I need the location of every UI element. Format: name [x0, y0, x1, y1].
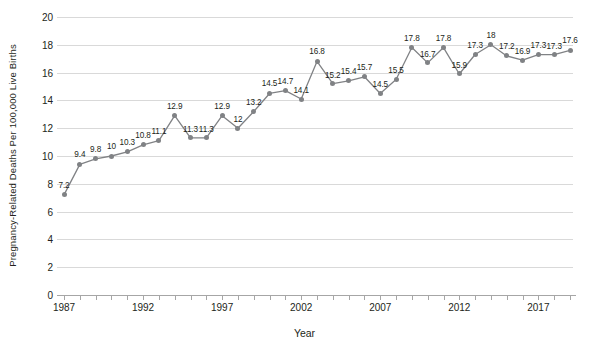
- x-axis-tick: [222, 296, 223, 300]
- data-point-label: 9.4: [74, 150, 85, 159]
- x-axis-tick: [444, 296, 445, 300]
- x-axis-tick-label: 2017: [527, 302, 549, 313]
- x-axis-tick-label: 1997: [211, 302, 233, 313]
- y-axis-tick-label: 0: [29, 290, 53, 301]
- y-axis-tick-label: 10: [29, 151, 53, 162]
- x-axis-tick: [206, 296, 207, 300]
- x-axis-tick-label: 2002: [290, 302, 312, 313]
- data-point-label: 9.8: [90, 145, 101, 154]
- x-axis-tick: [523, 296, 524, 300]
- x-axis-tick: [143, 296, 144, 300]
- x-axis-tick: [270, 296, 271, 300]
- x-axis-tick: [475, 296, 476, 300]
- data-point-marker: [536, 52, 541, 57]
- data-point-marker: [109, 154, 114, 159]
- x-axis-tick: [412, 296, 413, 300]
- data-point-marker: [315, 59, 320, 64]
- data-point-marker: [473, 52, 478, 57]
- x-axis-tick: [111, 296, 112, 300]
- x-axis-tick: [554, 296, 555, 300]
- x-axis-title: Year: [0, 327, 609, 339]
- y-axis-tick-label: 12: [29, 123, 53, 134]
- plot-area: 7.29.49.81010.310.811.112.911.311.312.91…: [57, 17, 573, 295]
- y-axis-title-text: Pregnancy-Related Deaths Per 100,000 Liv…: [7, 44, 18, 267]
- data-point-label: 15.4: [341, 67, 357, 76]
- chart-container: Pregnancy-Related Deaths Per 100,000 Liv…: [0, 0, 609, 354]
- x-axis-tick: [396, 296, 397, 300]
- data-point-marker: [220, 113, 225, 118]
- x-axis-tick: [64, 296, 65, 300]
- x-axis-tick: [491, 296, 492, 300]
- y-axis-tick-label: 18: [29, 39, 53, 50]
- data-point-label: 12.9: [214, 102, 230, 111]
- data-point-label: 14.1: [293, 86, 309, 95]
- y-axis-tick-label: 14: [29, 95, 53, 106]
- x-axis-tick: [127, 296, 128, 300]
- data-point-marker: [394, 77, 399, 82]
- y-axis-tick-label: 4: [29, 234, 53, 245]
- y-axis-tick-label: 8: [29, 178, 53, 189]
- data-point-label: 11.1: [151, 127, 166, 136]
- x-axis-tick-label: 1987: [53, 302, 75, 313]
- x-axis-tick: [364, 296, 365, 300]
- x-axis-tick-label: 2007: [369, 302, 391, 313]
- x-axis-tick: [285, 296, 286, 300]
- x-axis-tick: [254, 296, 255, 300]
- data-point-marker: [141, 142, 146, 147]
- x-axis-tick: [459, 296, 460, 300]
- data-point-marker: [299, 97, 304, 102]
- data-point-label: 12.9: [167, 102, 183, 111]
- data-point-label: 15.7: [357, 63, 373, 72]
- x-axis-tick: [80, 296, 81, 300]
- y-axis-tick-label: 6: [29, 206, 53, 217]
- data-point-label: 17.6: [562, 36, 578, 45]
- y-axis-title: Pregnancy-Related Deaths Per 100,000 Liv…: [0, 0, 24, 310]
- y-axis-tick-labels: 02468101214161820: [25, 17, 53, 295]
- data-point-label: 16.7: [420, 50, 436, 59]
- data-point-label: 17.2: [499, 42, 515, 51]
- x-axis-tick: [317, 296, 318, 300]
- x-axis-tick: [333, 296, 334, 300]
- x-axis-tick-label: 1992: [132, 302, 154, 313]
- data-point-label: 13.2: [246, 98, 262, 107]
- y-axis-tick-label: 20: [29, 12, 53, 23]
- x-axis-tick: [538, 296, 539, 300]
- data-point-label: 14.5: [262, 79, 278, 88]
- data-point-label: 17.3: [467, 41, 483, 50]
- x-axis-tick: [175, 296, 176, 300]
- x-axis-tick: [349, 296, 350, 300]
- data-point-label: 17.3: [531, 41, 547, 50]
- data-point-label: 17.3: [546, 42, 562, 51]
- x-axis-tick: [191, 296, 192, 300]
- data-point-label: 11.3: [183, 125, 198, 134]
- data-point-label: 15.9: [452, 61, 468, 70]
- data-point-label: 17.8: [436, 34, 452, 43]
- x-axis-tick: [380, 296, 381, 300]
- data-point-label: 18: [486, 31, 495, 40]
- x-axis-tick: [570, 296, 571, 300]
- x-axis-tick: [301, 296, 302, 300]
- x-axis-tick-label: 2012: [448, 302, 470, 313]
- y-axis-tick-label: 16: [29, 67, 53, 78]
- data-point-label: 11.3: [199, 125, 214, 134]
- data-point-label: 17.8: [404, 34, 420, 43]
- data-point-marker: [378, 91, 383, 96]
- data-point-marker: [62, 192, 67, 197]
- data-point-label: 14.7: [278, 77, 294, 86]
- data-point-label: 16.9: [515, 47, 531, 56]
- data-point-label: 10.3: [119, 138, 135, 147]
- x-axis-tick: [428, 296, 429, 300]
- x-axis-tick: [159, 296, 160, 300]
- y-axis-tick-label: 2: [29, 262, 53, 273]
- data-point-label: 10.8: [135, 131, 151, 140]
- x-axis-tick: [238, 296, 239, 300]
- data-point-marker: [267, 91, 272, 96]
- data-point-label: 7.2: [58, 181, 69, 190]
- x-axis-tick: [507, 296, 508, 300]
- data-point-marker: [568, 48, 573, 53]
- data-point-label: 14.5: [372, 80, 388, 89]
- data-point-marker: [552, 52, 557, 57]
- data-point-label: 16.8: [309, 47, 325, 56]
- data-point-label: 12: [233, 115, 242, 124]
- x-axis-tick: [96, 296, 97, 300]
